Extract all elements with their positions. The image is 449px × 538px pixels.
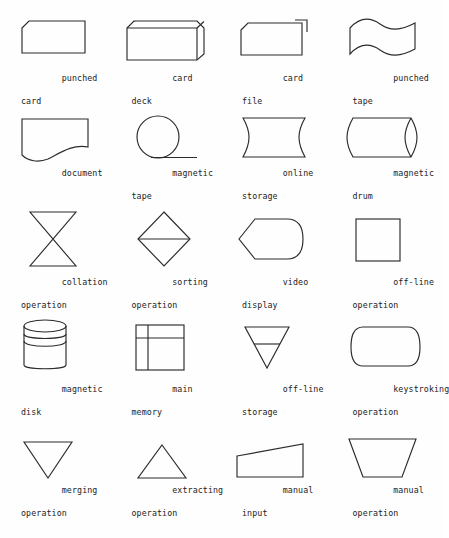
symbol-cell-collation-operation: collation operation	[0, 202, 111, 307]
video-display-icon	[221, 208, 332, 270]
symbol-cell-video-display: video display	[221, 202, 332, 307]
symbol-cell-off-line-storage: off-line storage	[221, 307, 332, 412]
symbol-label-merging-operation: merging operation	[21, 474, 97, 538]
symbol-cell-card-deck: card deck	[111, 0, 222, 105]
punched-tape-icon	[332, 16, 443, 66]
symbol-label-extracting-operation: extracting operation	[132, 474, 224, 538]
symbol-cell-manual-input: manual input	[221, 412, 332, 538]
extracting-operation-icon	[111, 420, 222, 482]
symbol-cell-merging-operation: merging operation	[0, 412, 111, 538]
punched-card-icon	[0, 16, 111, 66]
card-deck-icon	[111, 16, 222, 66]
off-line-operation-icon	[332, 208, 443, 270]
symbol-cell-document: document	[0, 105, 111, 202]
symbol-cell-extracting-operation: extracting operation	[111, 412, 222, 538]
main-memory-icon	[111, 315, 222, 377]
symbol-cell-magnetic-tape: magnetic tape	[111, 105, 222, 202]
symbol-cell-sorting-operation: sorting operation	[111, 202, 222, 307]
symbol-cell-online-storage: online storage	[221, 105, 332, 202]
symbol-label-manual-operation: manual operation	[353, 474, 424, 538]
symbol-cell-punched-tape: punched tape	[332, 0, 443, 105]
symbol-cell-off-line-operation: off-line operation	[332, 202, 443, 307]
symbol-cell-main-memory: main memory	[111, 307, 222, 412]
symbol-cell-manual-operation: manual operation	[332, 412, 443, 538]
symbol-cell-card-file: card file	[221, 0, 332, 105]
symbol-cell-keystroking-operation: keystroking operation	[332, 307, 443, 412]
symbol-cell-magnetic-drum: magnetic drum	[332, 105, 443, 202]
card-file-icon	[221, 16, 332, 66]
merging-operation-icon	[0, 420, 111, 482]
sorting-operation-icon	[111, 208, 222, 270]
symbol-cell-magnetic-disk: magnetic disk	[0, 307, 111, 412]
off-line-storage-icon	[221, 315, 332, 377]
keystroking-operation-icon	[332, 315, 443, 377]
manual-input-icon	[221, 420, 332, 482]
magnetic-disk-icon	[0, 315, 111, 377]
symbol-cell-punched-card: punched card	[0, 0, 111, 105]
collation-operation-icon	[0, 208, 111, 270]
manual-operation-icon	[332, 420, 443, 482]
symbol-label-manual-input: manual input	[242, 474, 313, 538]
